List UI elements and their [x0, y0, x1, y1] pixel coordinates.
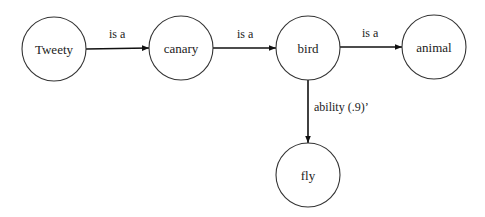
node-label: animal: [416, 40, 452, 55]
edge-label-is-a: is a: [109, 27, 126, 41]
edge-label-is-a: is a: [362, 26, 379, 40]
edge-bird-fly: ability (.9)ʼ: [308, 80, 369, 143]
node-animal: animal: [402, 15, 466, 79]
edge-canary-bird: is a: [213, 27, 276, 48]
edge-tweety-canary: is a: [86, 27, 149, 49]
node-label: fly: [301, 168, 316, 183]
node-tweety: Tweety: [22, 17, 86, 81]
edge-label-is-a: is a: [237, 27, 254, 41]
node-label: canary: [164, 41, 199, 56]
node-fly: fly: [276, 143, 340, 207]
node-canary: canary: [149, 16, 213, 80]
node-label: bird: [298, 41, 319, 56]
arrow-line: [86, 48, 149, 49]
edge-label-ability: ability (.9)ʼ: [314, 100, 369, 114]
node-bird: bird: [276, 16, 340, 80]
node-label: Tweety: [35, 42, 74, 57]
edge-bird-animal: is a: [340, 26, 402, 47]
semantic-network-diagram: is a is a is a ability (.9)ʼ Tweety cana…: [0, 0, 485, 217]
